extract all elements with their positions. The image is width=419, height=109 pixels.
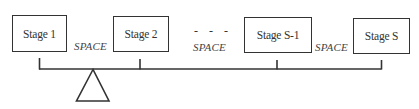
stage-s-minus-1-label: Stage S-1	[257, 29, 300, 41]
fulcrum-triangle-icon	[77, 70, 110, 102]
stage-s-label: Stage S	[365, 30, 398, 42]
space-label-3: SPACE	[315, 41, 348, 53]
stage-s-minus-1-box: Stage S-1	[244, 17, 312, 53]
stage-2-box: Stage 2	[113, 16, 169, 52]
stage-s-box: Stage S	[353, 18, 410, 54]
stage-1-box: Stage 1	[12, 15, 67, 52]
space-label-2: SPACE	[193, 41, 226, 53]
space-label-1: SPACE	[74, 40, 107, 52]
stage-1-label: Stage 1	[23, 28, 56, 40]
stage-2-label: Stage 2	[125, 28, 158, 40]
ellipsis-dashes: - - -	[194, 24, 232, 39]
